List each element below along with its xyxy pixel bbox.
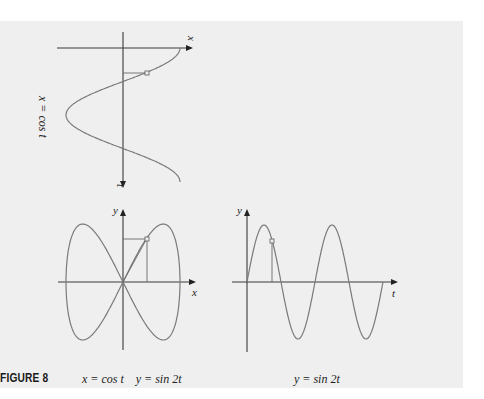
bottom-left-graph: y x: [58, 204, 197, 350]
figure-graphics: x t x = cos t y x y t: [0, 0, 484, 399]
caption-right: y = sin 2t: [294, 372, 340, 387]
caption-right-eq: y = sin 2t: [294, 372, 340, 386]
figure-number: FIGURE 8: [0, 371, 48, 385]
top-t-label: t: [115, 184, 127, 188]
top-graph-label: x = cos t: [36, 95, 50, 138]
bl-y-label: y: [112, 204, 118, 216]
top-x-label: x: [186, 35, 198, 41]
top-x-arrow-icon: [186, 45, 193, 51]
bl-point-marker: [145, 237, 149, 241]
br-y-arrow-icon: [244, 209, 250, 216]
bl-x-arrow-icon: [189, 279, 196, 285]
br-t-arrow-icon: [391, 279, 398, 285]
bl-x-label: x: [191, 286, 197, 298]
caption-left: x = cos t y = sin 2t: [82, 372, 182, 387]
br-y-label: y: [236, 204, 242, 216]
bl-y-arrow-icon: [120, 209, 126, 216]
bottom-right-graph: y t: [232, 204, 398, 352]
bl-radius-line: [123, 240, 146, 282]
br-point-marker: [270, 239, 274, 243]
top-graph: x t x = cos t: [36, 32, 198, 188]
top-point-marker: [145, 71, 149, 75]
caption-x-eq: x = cos t: [82, 372, 124, 386]
caption-y-eq: y = sin 2t: [136, 372, 182, 386]
br-t-label: t: [392, 287, 396, 299]
